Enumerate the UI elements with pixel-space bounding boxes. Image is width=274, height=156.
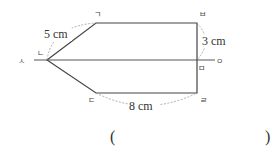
answer-paren-open: (: [110, 128, 115, 146]
measure-label-dr: 8 cm: [129, 99, 153, 113]
vertex-label-digeut: ㄷ: [88, 96, 95, 105]
endpoint-label-siot: ㅅ: [18, 57, 25, 66]
vertex-label-giyeok: ㄱ: [94, 10, 101, 19]
endpoint-label-ieung: ㅇ: [216, 57, 223, 66]
measure-label-gn: 5 cm: [44, 27, 68, 41]
vertex-label-nieun: ㄴ: [37, 49, 44, 58]
measure-label-bm: 3 cm: [202, 34, 226, 48]
vertex-label-rieul: ㄹ: [200, 96, 207, 105]
answer-paren-close: ): [265, 128, 270, 146]
vertex-label-bieup: ㅂ: [199, 10, 206, 19]
vertex-label-mieum: ㅁ: [198, 64, 205, 73]
figure-canvas: 5 cm 3 cm 8 cm ㄱ ㄴ ㄷ ㄹ ㅁ ㅂ ㅅ ㅇ ( ): [0, 0, 274, 156]
